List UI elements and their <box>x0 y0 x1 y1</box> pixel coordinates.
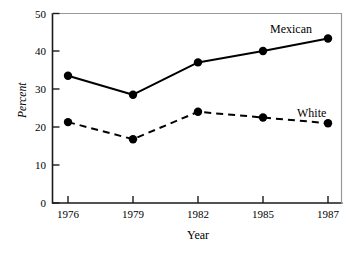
y-axis-title: Percent <box>16 83 28 118</box>
data-point <box>64 72 72 80</box>
data-point <box>194 108 202 116</box>
x-tick-label-1987: 1987 <box>317 209 339 220</box>
data-point <box>324 34 332 42</box>
data-point <box>64 118 72 126</box>
chart-figure: 0 10 20 30 40 50 1976 1979 1982 1985 198… <box>0 0 359 255</box>
x-tick-label-1982: 1982 <box>187 209 209 220</box>
y-tick-label-20: 20 <box>26 122 46 133</box>
x-tick-label-1979: 1979 <box>122 209 144 220</box>
x-tick-label-1985: 1985 <box>252 209 274 220</box>
data-point <box>194 58 202 66</box>
y-tick-label-40: 40 <box>26 46 46 57</box>
series-label-mexican: Mexican <box>270 22 312 37</box>
y-tick-label-30: 30 <box>26 84 46 95</box>
line-chart-plot <box>0 0 359 255</box>
x-tick-label-1976: 1976 <box>57 209 79 220</box>
y-axis-ticks <box>53 14 60 204</box>
series-mexican <box>64 34 332 99</box>
series-white <box>64 108 332 144</box>
data-point <box>129 91 137 99</box>
x-axis-ticks <box>68 196 328 203</box>
data-point <box>259 47 267 55</box>
x-axis-title: Year <box>187 228 209 243</box>
data-point <box>129 135 137 143</box>
y-tick-label-0: 0 <box>26 198 46 209</box>
y-tick-label-10: 10 <box>26 160 46 171</box>
data-point <box>259 113 267 121</box>
series-label-white: White <box>297 106 326 121</box>
y-tick-label-50: 50 <box>26 9 46 20</box>
